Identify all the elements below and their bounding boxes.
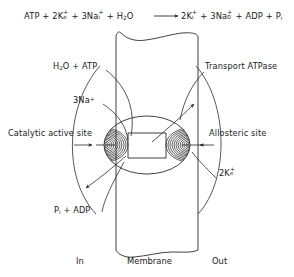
eq-na-ext: 3Na+0 <box>210 11 233 21</box>
label-allosteric-site: Allosteric site <box>209 129 266 138</box>
eq-plus-1: + <box>42 11 49 21</box>
eq-k-ext: 2K+e <box>52 11 69 21</box>
eq-plus-4: + <box>200 11 207 21</box>
product-efflux-curve <box>86 156 126 188</box>
outer-left-arc <box>72 66 100 214</box>
diagram-canvas <box>0 0 294 277</box>
label-sodium-influx: 3Na+ <box>73 96 95 105</box>
eq-plus-3: + <box>107 11 114 21</box>
transport-atpase-figure: ATP + 2K+e + 3Na+i + H2O 2K+i + 3Na+0 + … <box>0 0 294 277</box>
eq-adp: ADP <box>245 11 263 21</box>
eq-atp: ATP <box>24 11 40 21</box>
eq-water: H2O <box>117 11 134 21</box>
h2o-atp-flow-curve <box>106 70 132 136</box>
label-h2o-atp: H2O + ATP <box>53 62 97 72</box>
atpase-leader-curve <box>180 72 204 120</box>
eq-k-int: 2K+i <box>181 11 198 21</box>
k-influx-curve <box>192 152 216 178</box>
label-potassium-influx: 2K+e <box>219 168 230 178</box>
eq-phosphate: Pi <box>276 11 283 21</box>
atpase-body <box>104 116 190 174</box>
substrate-flow-arrows-left <box>72 66 132 214</box>
reaction-equation-left: ATP + 2K+e + 3Na+i + H2O <box>24 11 133 22</box>
label-pi-adp: Pi + ADP <box>54 206 90 216</box>
axis-label-out: Out <box>212 256 227 266</box>
reaction-equation-right: 2K+i + 3Na+0 + ADP + Pi <box>181 11 282 22</box>
label-transport-atpase: Transport ATPase <box>205 62 277 71</box>
eq-plus-5: + <box>236 11 243 21</box>
pi-adp-flow-curve <box>102 162 124 212</box>
axis-label-in: In <box>76 256 84 266</box>
axis-label-membrane: Membrane <box>127 256 172 266</box>
eq-na-int: 3Na+i <box>81 11 104 21</box>
eq-plus-6: + <box>266 11 273 21</box>
eq-plus-2: + <box>72 11 79 21</box>
outer-right-arc <box>196 66 221 214</box>
label-catalytic-active-site: Catalytic active site <box>8 129 92 138</box>
